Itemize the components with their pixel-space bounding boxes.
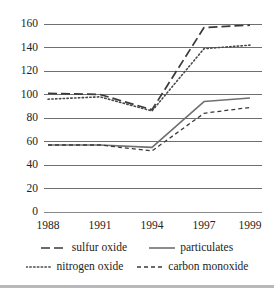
legend-entry-nitrogen-oxide[interactable]: nitrogen oxide bbox=[26, 261, 124, 273]
bottom-divider bbox=[0, 285, 274, 288]
y-tick-label: 120 bbox=[21, 65, 38, 77]
legend-row: sulfur oxideparticulates bbox=[0, 238, 274, 257]
y-tick-label: 140 bbox=[21, 42, 38, 54]
x-tick-label: 1999 bbox=[224, 220, 274, 232]
chart-legend: sulfur oxideparticulates nitrogen oxidec… bbox=[0, 238, 274, 284]
x-tick-label: 1991 bbox=[74, 220, 126, 232]
x-tick-label: 1997 bbox=[178, 220, 230, 232]
series-line-particulates bbox=[48, 98, 250, 147]
x-tick-label: 1988 bbox=[22, 220, 74, 232]
y-tick-label: 160 bbox=[21, 18, 38, 30]
legend-swatch-solid-icon bbox=[149, 243, 175, 253]
legend-label: sulfur oxide bbox=[72, 242, 127, 254]
legend-swatch-dotted-icon bbox=[26, 262, 52, 272]
legend-entry-sulfur-oxide[interactable]: sulfur oxide bbox=[41, 242, 127, 254]
y-tick-label: 80 bbox=[27, 112, 39, 124]
series-lines-group bbox=[48, 25, 250, 151]
y-tick-label: 40 bbox=[27, 159, 39, 171]
legend-label: particulates bbox=[180, 242, 233, 254]
legend-row: nitrogen oxidecarbon monoxide bbox=[0, 257, 274, 276]
y-tick-label: 100 bbox=[21, 89, 38, 101]
legend-entry-carbon-monoxide[interactable]: carbon monoxide bbox=[137, 261, 248, 273]
legend-swatch-long-dash-icon bbox=[41, 243, 67, 253]
legend-swatch-short-dash-icon bbox=[137, 262, 163, 272]
y-tick-label: 60 bbox=[27, 136, 39, 148]
gridlines-group bbox=[44, 24, 262, 212]
legend-label: carbon monoxide bbox=[168, 261, 248, 273]
y-tick-label: 20 bbox=[27, 183, 39, 195]
legend-label: nitrogen oxide bbox=[57, 261, 124, 273]
y-tick-label: 0 bbox=[32, 206, 38, 218]
x-tick-label: 1994 bbox=[126, 220, 178, 232]
chart-figure: 020406080100120140160 198819911994199719… bbox=[0, 0, 274, 290]
legend-entry-particulates[interactable]: particulates bbox=[149, 242, 233, 254]
series-line-carbon-monoxide bbox=[48, 107, 250, 150]
chart-plot-area bbox=[0, 0, 274, 238]
